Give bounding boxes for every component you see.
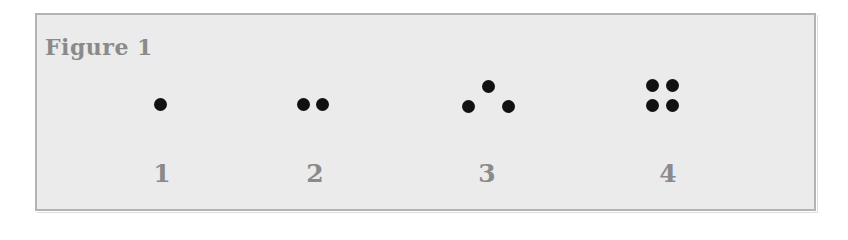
group-label-1: 1 bbox=[153, 159, 170, 188]
group-label-2: 2 bbox=[306, 159, 323, 188]
dot bbox=[462, 100, 475, 113]
dot bbox=[482, 80, 495, 93]
dot bbox=[666, 79, 679, 92]
group-label-4: 4 bbox=[659, 159, 676, 188]
dot bbox=[646, 79, 659, 92]
dot bbox=[646, 99, 659, 112]
dot bbox=[666, 99, 679, 112]
dot bbox=[316, 98, 329, 111]
dot bbox=[502, 100, 515, 113]
figure-title: Figure 1 bbox=[45, 34, 153, 60]
dot bbox=[297, 98, 310, 111]
dot bbox=[154, 98, 167, 111]
group-label-3: 3 bbox=[478, 159, 495, 188]
